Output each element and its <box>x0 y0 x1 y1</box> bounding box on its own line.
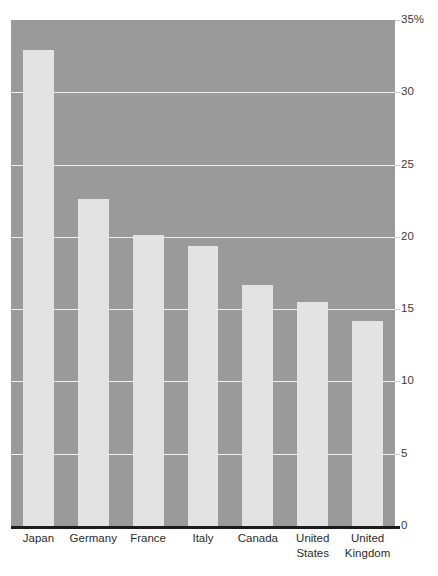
x-label-italy: Italy <box>176 531 231 546</box>
y-tick-mark-5 <box>395 454 400 455</box>
bars <box>11 20 395 526</box>
bar-germany <box>78 199 109 526</box>
bar-canada <box>242 285 273 526</box>
bar-france <box>133 235 164 526</box>
y-tick-label-15: 15 <box>401 303 414 314</box>
x-label-japan: Japan <box>11 531 66 546</box>
y-tick-label-5: 5 <box>401 448 407 459</box>
y-tick-mark-20 <box>395 237 400 238</box>
y-tick-label-10: 10 <box>401 375 414 386</box>
y-tick-label-35: 35% <box>401 14 424 25</box>
y-tick-mark-30 <box>395 92 400 93</box>
bar-united-states <box>297 302 328 526</box>
bar-italy <box>188 246 219 526</box>
x-label-germany: Germany <box>66 531 121 546</box>
y-tick-mark-25 <box>395 165 400 166</box>
y-tick-label-25: 25 <box>401 159 414 170</box>
y-tick-mark-35 <box>395 20 400 21</box>
x-label-france: France <box>121 531 176 546</box>
bar-united-kingdom <box>352 321 383 526</box>
y-tick-mark-15 <box>395 309 400 310</box>
bar-japan <box>23 50 54 526</box>
bar-chart: 35%302520151050 JapanGermanyFranceItalyC… <box>0 0 438 576</box>
x-axis-category-labels: JapanGermanyFranceItalyCanadaUnitedState… <box>11 531 395 575</box>
x-label-united-states: UnitedStates <box>285 531 340 561</box>
y-tick-label-0: 0 <box>401 520 407 531</box>
x-label-canada: Canada <box>230 531 285 546</box>
y-tick-label-20: 20 <box>401 231 414 242</box>
x-axis-line <box>11 526 395 529</box>
y-tick-mark-10 <box>395 381 400 382</box>
y-tick-label-30: 30 <box>401 86 414 97</box>
y-tick-mark-0 <box>395 526 400 529</box>
plot-area <box>11 20 395 526</box>
x-label-united-kingdom: UnitedKingdom <box>340 531 395 561</box>
